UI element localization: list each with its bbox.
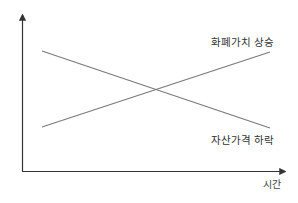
falling-series-label: 자산가격 하락 xyxy=(211,135,274,146)
rising-series-label: 화폐가치 상승 xyxy=(211,37,274,48)
rising-line xyxy=(42,52,270,127)
chart-canvas xyxy=(0,0,298,203)
x-axis-label: 시간 xyxy=(263,180,281,190)
